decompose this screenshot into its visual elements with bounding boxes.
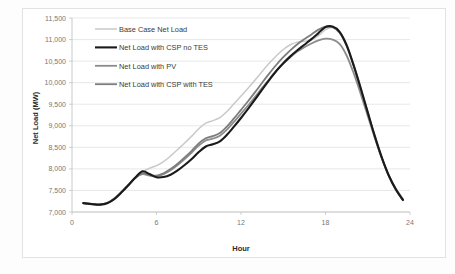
chart-container: 7,0007,5008,0008,5009,0009,50010,00010,5… — [0, 0, 455, 274]
series-line-1 — [83, 26, 403, 205]
y-tick-label: 8,000 — [48, 165, 66, 172]
x-tick-label: 12 — [237, 219, 245, 226]
y-tick-label: 11,500 — [45, 15, 66, 22]
y-tick-label: 8,500 — [48, 144, 66, 151]
legend-item-2: Net Load with PV — [95, 62, 176, 71]
y-tick-label: 10,500 — [45, 58, 67, 65]
y-tick-label: 9,000 — [48, 122, 66, 129]
y-tick-marks-group — [69, 18, 72, 212]
legend-label-2: Net Load with PV — [119, 62, 176, 71]
y-axis-title: Net Load (MW) — [31, 91, 40, 144]
x-tick-label: 18 — [322, 219, 330, 226]
legend-label-0: Base Case Net Load — [119, 25, 187, 34]
plot-area: 7,0007,5008,0008,5009,0009,50010,00010,5… — [0, 0, 455, 274]
legend-item-0: Base Case Net Load — [95, 25, 187, 34]
legend: Base Case Net LoadNet Load with CSP no T… — [95, 25, 213, 89]
y-tick-label: 10,000 — [45, 79, 67, 86]
legend-item-1: Net Load with CSP no TES — [95, 43, 208, 52]
x-tick-labels-group: 06121824 — [70, 219, 414, 226]
x-tick-label: 24 — [406, 219, 414, 226]
series-group — [83, 26, 403, 205]
legend-label-1: Net Load with CSP no TES — [119, 43, 208, 52]
y-tick-label: 11,000 — [45, 36, 66, 43]
line-chart-svg: 7,0007,5008,0008,5009,0009,50010,00010,5… — [0, 0, 455, 274]
legend-item-3: Net Load with CSP with TES — [95, 80, 213, 89]
y-tick-label: 7,000 — [48, 209, 66, 216]
y-tick-label: 9,500 — [48, 101, 66, 108]
x-tick-marks-group — [72, 212, 410, 215]
x-tick-label: 0 — [70, 219, 74, 226]
x-axis-title: Hour — [232, 244, 250, 253]
y-tick-labels-group: 7,0007,5008,0008,5009,0009,50010,00010,5… — [45, 15, 67, 216]
y-tick-label: 7,500 — [48, 187, 66, 194]
x-tick-label: 6 — [155, 219, 159, 226]
legend-label-3: Net Load with CSP with TES — [119, 80, 213, 89]
